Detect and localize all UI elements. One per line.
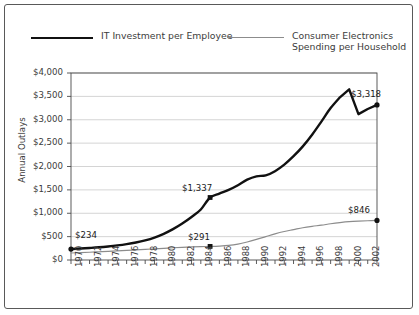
y-axis-tick-label: $0 xyxy=(17,254,63,264)
y-axis-tick-label: $500 xyxy=(17,231,63,241)
data-point-label: $291 xyxy=(188,232,210,242)
y-axis-tick-label: $3,500 xyxy=(17,90,63,100)
data-point-marker xyxy=(374,102,379,107)
y-axis-tick-label: $4,000 xyxy=(17,67,63,77)
data-point-marker xyxy=(68,246,73,251)
data-point-label: $234 xyxy=(75,230,97,240)
x-axis-tick-label: 1982 xyxy=(186,246,196,267)
x-axis-tick-label: 1972 xyxy=(93,246,103,267)
x-axis-tick-label: 2000 xyxy=(353,246,363,267)
data-point-label: $1,337 xyxy=(182,183,212,193)
x-axis-tick-label: 1986 xyxy=(223,246,233,267)
x-axis-tick-label: 1998 xyxy=(334,246,344,267)
x-axis-tick-label: 1996 xyxy=(315,246,325,267)
x-axis-tick-label: 1976 xyxy=(130,246,140,267)
x-axis-tick-label: 1992 xyxy=(278,246,288,267)
x-axis-tick-label: 1978 xyxy=(149,246,159,267)
y-axis-tick-label: $2,500 xyxy=(17,137,63,147)
x-axis-tick-label: 1974 xyxy=(111,246,121,267)
plot-area: $0$500$1,000$1,500$2,000$2,500$3,000$3,5… xyxy=(5,5,414,310)
data-point-label: $846 xyxy=(348,205,370,215)
y-axis-tick-label: $2,000 xyxy=(17,161,63,171)
data-point-label: $3,318 xyxy=(351,89,381,99)
y-axis-tick-label: $1,000 xyxy=(17,207,63,217)
chart-frame: IT Investment per Employee Consumer Elec… xyxy=(4,4,413,309)
x-axis-tick-label: 2002 xyxy=(371,246,381,267)
data-point-marker xyxy=(374,218,379,223)
x-axis-tick-label: 1984 xyxy=(204,246,214,267)
y-axis-tick-label: $1,500 xyxy=(17,184,63,194)
y-axis-tick-label: $3,000 xyxy=(17,114,63,124)
x-axis-tick-label: 1980 xyxy=(167,246,177,267)
data-point-marker xyxy=(208,195,213,200)
data-series-line xyxy=(71,89,377,249)
x-axis-tick-label: 1990 xyxy=(260,246,270,267)
x-axis-tick-label: 1988 xyxy=(241,246,251,267)
x-axis-tick-label: 1994 xyxy=(297,246,307,267)
x-axis-tick-label: 1970 xyxy=(74,246,84,267)
